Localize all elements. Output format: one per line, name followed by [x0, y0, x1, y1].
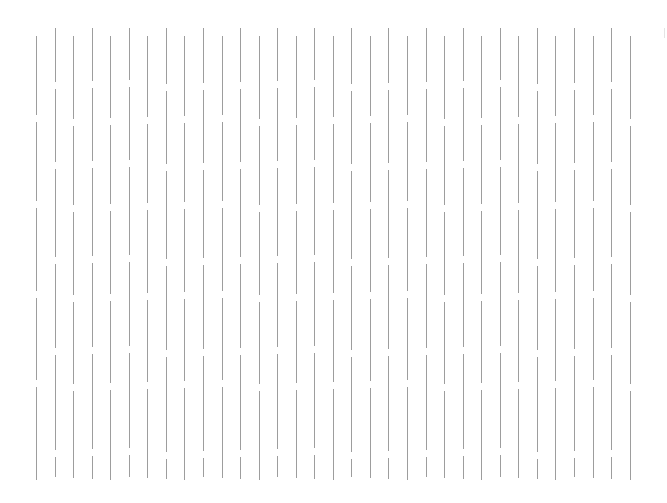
vertical-dashed-line-pattern: [0, 0, 667, 503]
edge-artifact: [664, 28, 665, 38]
